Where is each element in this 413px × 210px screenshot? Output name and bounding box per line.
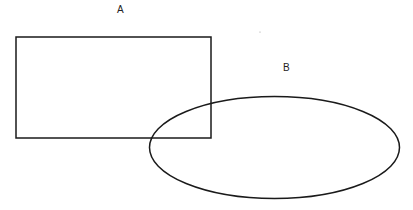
- rectangle-a: [16, 37, 211, 138]
- label-a: A: [117, 5, 124, 15]
- diagram-canvas: [0, 0, 413, 210]
- stray-dot: [259, 31, 260, 32]
- label-b: B: [283, 63, 290, 73]
- ellipse-b: [150, 97, 400, 199]
